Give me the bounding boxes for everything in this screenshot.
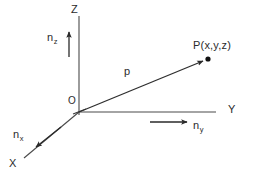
- unit-vector-ny-label: ny: [193, 120, 203, 131]
- unit-vector-nx-arrow: [36, 127, 61, 147]
- nx-base: n: [13, 128, 19, 140]
- z-axis-label: Z: [71, 4, 78, 15]
- position-vector-p: [79, 61, 203, 112]
- nx-subscript: x: [20, 134, 24, 143]
- unit-vector-nz-label: nz: [47, 32, 57, 43]
- unit-vector-nx-label: nx: [13, 129, 23, 140]
- ny-subscript: y: [200, 125, 204, 134]
- ny-base: n: [193, 119, 199, 131]
- origin-label: O: [68, 96, 76, 106]
- y-axis-label: Y: [228, 104, 236, 115]
- nz-base: n: [47, 31, 53, 43]
- position-vector-label: p: [124, 66, 130, 77]
- x-axis-label: X: [9, 158, 17, 169]
- point-p-label: P(x,y,z): [193, 40, 231, 51]
- nz-subscript: z: [54, 37, 58, 46]
- point-p-dot: [205, 56, 210, 61]
- figure-canvas: [0, 0, 254, 183]
- coordinate-system-figure: Z Y X O nz ny nx p P(x,y,z): [0, 0, 254, 183]
